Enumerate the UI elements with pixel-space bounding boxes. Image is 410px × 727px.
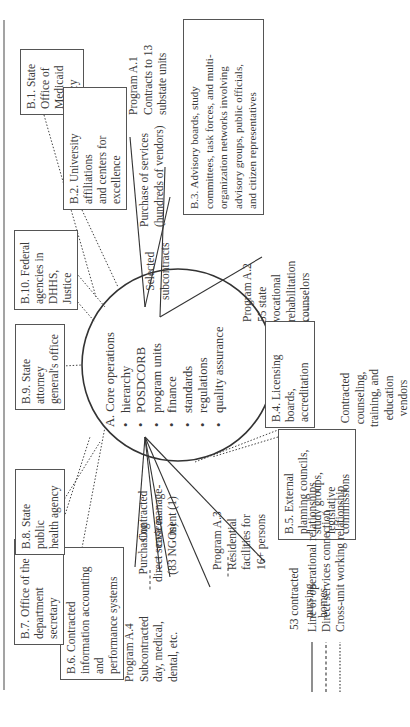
program-a3: Program A.3 Residential facilities for 1… xyxy=(210,511,268,570)
box-b10-federal-agencies: B.10. Federal agencies in DHHS, Justice xyxy=(14,230,78,310)
purchase-line: (hundreds of vendors) xyxy=(152,125,167,227)
case-mgmt-line: case manage- xyxy=(151,485,166,547)
case-mgmt-line: ment (1) xyxy=(165,485,180,547)
a4-line: Subcontracted xyxy=(137,616,152,682)
contracted-case-management: Contracted case manage- ment (1) xyxy=(136,485,180,547)
core-item: standards xyxy=(181,327,197,427)
program-a1: Program A.1 Contracts to 13 substate uni… xyxy=(126,45,170,115)
box-b2-university-affiliations: B.2. University affiliations and centers… xyxy=(63,87,127,210)
box-b8-public-health-agency: B.8. State public health agency xyxy=(15,469,65,555)
box-b6-contracted-information: B.6. Contracted information accounting a… xyxy=(60,547,124,680)
a2-line: vocational xyxy=(269,261,284,322)
b4-line: boards, accreditation xyxy=(283,327,311,422)
b5-line: B.5. External xyxy=(282,435,296,534)
vendors-line: vendors xyxy=(396,369,410,427)
core-title: A. Core operations xyxy=(103,327,119,427)
b6-line: information accounting and xyxy=(78,553,106,674)
b8-line: health agency xyxy=(47,475,61,549)
case-mgmt-line: Contracted xyxy=(136,485,151,547)
a4-line: day, medical, xyxy=(151,616,166,682)
b2-line: and centers for excellence xyxy=(95,93,123,204)
a3-line: Residential xyxy=(225,511,240,570)
b3-line: committees, task forces, and multi- xyxy=(202,25,217,209)
vendors-line: Contracted xyxy=(338,369,353,427)
a2-line: rehabilitation xyxy=(284,261,299,322)
a1-line: substate units xyxy=(155,45,170,115)
b3-line: B.3. Advisory boards, study xyxy=(187,25,202,209)
core-item: finance xyxy=(165,327,181,427)
b9-line: B.9. State attorney xyxy=(19,330,47,404)
selected-subcontracts: Selected subcontracts xyxy=(143,243,172,300)
box-b4-licensing-boards: B.4. Licensing boards, accreditation xyxy=(265,321,315,428)
core-operations: A. Core operations hierarchy POSDCORB pr… xyxy=(103,327,227,427)
b2-line: B.2. University affiliations xyxy=(67,93,95,204)
subcontracts-line: subcontracts xyxy=(158,243,173,300)
program-a2: Program A.2 55 state vocational rehabili… xyxy=(240,261,313,322)
b10-line: agencies in xyxy=(32,236,46,304)
a3-line: Program A.3 xyxy=(210,511,225,570)
a2-line: Program A.2 xyxy=(240,261,255,322)
core-item: quality assurance xyxy=(212,327,228,427)
contracted-counseling-vendors: Contracted counseling, training, and edu… xyxy=(338,369,410,427)
box-b9-attorney-general: B.9. State attorney general's office xyxy=(15,324,65,410)
a2-line: counselors xyxy=(298,261,313,322)
rotated-diagram-canvas: B.1. State Office of Medicaid Policy B.2… xyxy=(0,0,410,727)
subcontracts-line: Selected xyxy=(143,243,158,300)
a4-line: dental, etc. xyxy=(166,616,181,682)
a2-line: 55 state xyxy=(255,261,270,322)
b10-line: B.10. Federal xyxy=(18,236,32,304)
vendors-line: counseling, xyxy=(353,369,368,427)
core-item: POSDCORB xyxy=(134,327,150,427)
b4-line: B.4. Licensing xyxy=(269,327,283,422)
program-a4: Program A.4 Subcontracted day, medical, … xyxy=(122,616,180,682)
b7-line: B.7. Office of the xyxy=(18,545,32,639)
legend-solid-label: Line or operational relationships xyxy=(305,482,319,632)
core-item: hierarchy xyxy=(119,327,135,427)
core-item: program units xyxy=(150,327,166,427)
vendors-line: education xyxy=(382,369,397,427)
homes-line: 53 contracted xyxy=(287,568,302,630)
purchase-of-services: Purchase of services (hundreds of vendor… xyxy=(137,125,166,227)
legend-dashed-label: Direct services connection xyxy=(319,510,333,632)
b6-line: B.6. Contracted xyxy=(64,553,78,674)
a3-line: 16+ persons xyxy=(254,511,269,570)
core-item: regulations xyxy=(196,327,212,427)
b7-line: department secretary xyxy=(32,545,60,639)
b8-line: B.8. State public xyxy=(19,475,47,549)
purchase-line: Purchase of services xyxy=(137,125,152,227)
b6-line: performance systems xyxy=(106,553,120,674)
b3-line: organization networks involving xyxy=(216,25,231,209)
a3-line: facilities for xyxy=(239,511,254,570)
b10-line: DHHS, Justice xyxy=(46,236,74,304)
legend-dotted-label: Cross-unit working relationship xyxy=(333,486,347,632)
box-b3-advisory-boards: B.3. Advisory boards, study committees, … xyxy=(183,19,264,215)
b9-line: general's office xyxy=(47,330,61,404)
a4-line: Program A.4 xyxy=(122,616,137,682)
core-list: hierarchy POSDCORB program units finance… xyxy=(119,327,228,427)
vendors-line: training, and xyxy=(367,369,382,427)
b1-line: B.1. State Office of xyxy=(24,55,52,109)
a1-line: Contracts to 13 xyxy=(141,45,156,115)
b3-line: advisory groups, public officials, xyxy=(231,25,246,209)
b3-line: and citizen representatives xyxy=(245,25,260,209)
a1-line: Program A.1 xyxy=(126,45,141,115)
